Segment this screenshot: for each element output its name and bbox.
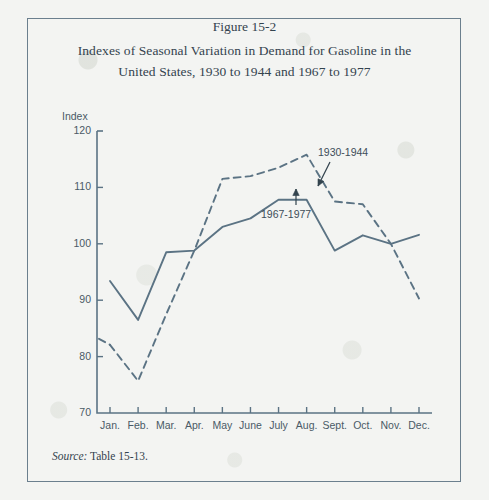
source-value: Table 15-13. <box>90 450 148 462</box>
figure-page: Figure 15-2 Indexes of Seasonal Variatio… <box>0 0 489 500</box>
annotation-arrow-head <box>318 179 324 186</box>
x-tick-label: Dec. <box>399 419 439 431</box>
chart-series <box>99 155 419 381</box>
source-label: Source: <box>52 450 87 462</box>
y-tick-label: 80 <box>61 350 91 362</box>
axis-lines <box>97 131 432 413</box>
series-line-1930-1944 <box>110 155 419 381</box>
chart-axes <box>97 131 432 413</box>
series-lead-stub <box>99 339 110 345</box>
source-note: Source: Table 15-13. <box>52 450 148 462</box>
y-tick-label: 90 <box>61 293 91 305</box>
series-annotation-1967-1977: 1967-1977 <box>261 208 311 220</box>
series-annotation-1930-1944: 1930-1944 <box>318 146 368 158</box>
annotation-arrow-head <box>293 189 299 196</box>
y-tick-label: 100 <box>61 237 91 249</box>
y-tick-label: 70 <box>61 406 91 418</box>
y-tick-label: 110 <box>61 180 91 192</box>
y-tick-label: 120 <box>61 124 91 136</box>
